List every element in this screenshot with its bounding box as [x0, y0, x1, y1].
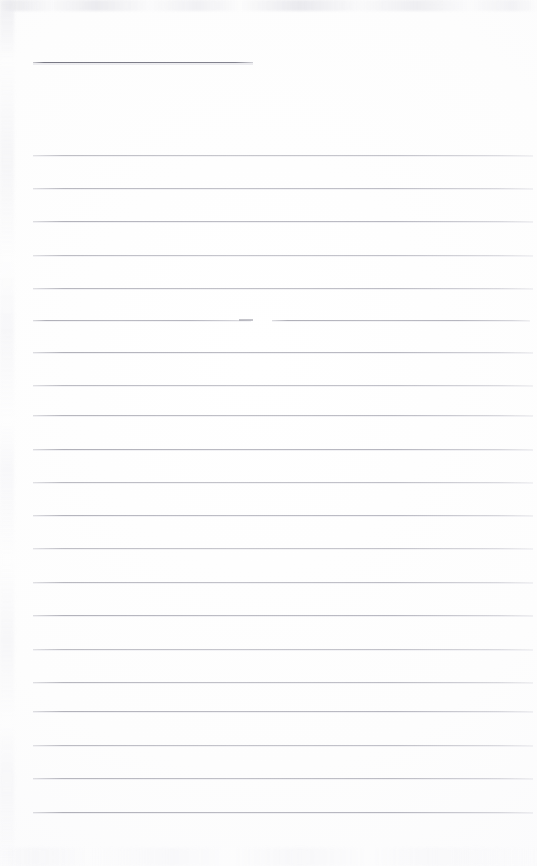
- ruled-line: [33, 155, 533, 156]
- ruled-line: [33, 449, 533, 450]
- ruled-line: [33, 649, 533, 650]
- ruled-line: [33, 515, 533, 516]
- heading-underline-rule: [33, 62, 253, 63]
- ruled-line: [33, 615, 533, 616]
- scan-artifact-top-edge: [0, 0, 537, 11]
- ruled-line: [33, 745, 533, 746]
- ruled-line: [33, 778, 533, 779]
- scan-artifact-bottom-edge: [0, 848, 537, 866]
- ruled-line: [33, 582, 533, 583]
- ruled-line: [33, 682, 533, 683]
- ruled-line: [33, 288, 533, 289]
- ruled-line: [33, 255, 533, 256]
- ruled-line: [33, 188, 533, 189]
- broken-rule-nib: [239, 319, 253, 321]
- ruled-line: [33, 221, 533, 222]
- ruled-line: [33, 352, 533, 353]
- ruled-line: [33, 482, 533, 483]
- scanned-page: [0, 0, 537, 866]
- paper-background: [0, 0, 537, 866]
- ruled-line: [33, 415, 533, 416]
- scan-artifact-left-edge: [0, 0, 14, 866]
- ruled-line: [33, 812, 533, 813]
- ruled-line: [33, 711, 533, 712]
- ruled-line: [33, 385, 533, 386]
- ruled-line: [33, 548, 533, 549]
- broken-rule-left-segment: [33, 320, 251, 321]
- broken-rule-right-segment: [272, 320, 530, 321]
